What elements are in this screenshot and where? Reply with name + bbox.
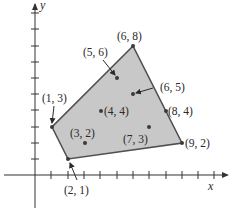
vertex-9-2	[180, 141, 184, 145]
point-3-2	[83, 141, 87, 145]
point-7-3	[147, 125, 151, 129]
label-point-8-4: (8, 4)	[168, 105, 193, 118]
vertex-6-8	[131, 44, 135, 48]
point-6-5	[131, 92, 135, 96]
label-point-4-4: (4, 4)	[104, 105, 129, 118]
x-axis-label: x	[207, 179, 214, 193]
feasible-region	[52, 46, 182, 159]
label-vertex-2-1: (2, 1)	[64, 184, 89, 197]
label-vertex-9-2: (9, 2)	[185, 137, 210, 150]
arrow-2-1	[70, 163, 77, 180]
arrow-1-3	[52, 106, 54, 123]
label-point-5-6: (5, 6)	[83, 46, 108, 59]
x-axis-arrow-icon	[222, 172, 229, 178]
label-point-6-5: (6, 5)	[160, 81, 185, 94]
y-axis-label: y	[39, 0, 46, 12]
vertex-2-1	[66, 157, 70, 161]
label-point-3-2: (3, 2)	[70, 127, 95, 140]
point-5-6	[115, 76, 119, 80]
label-vertex-6-8: (6, 8)	[117, 30, 142, 43]
y-axis-arrow-icon	[32, 3, 38, 10]
vertex-1-3	[50, 125, 54, 129]
point-4-4	[99, 109, 103, 113]
label-vertex-1-3: (1, 3)	[42, 92, 67, 105]
feasible-region-diagram: x y (6, 8) (5, 6) (6, 5) (1, 3) (4, 4) (…	[0, 0, 233, 216]
label-point-7-3: (7, 3)	[123, 133, 148, 146]
